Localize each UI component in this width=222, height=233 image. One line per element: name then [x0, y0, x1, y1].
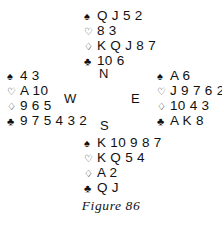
heart-icon: ♡	[157, 84, 167, 99]
spade-icon: ♠	[157, 69, 167, 84]
south-spades-row: ♠ K 10 9 8 7	[84, 135, 162, 150]
north-clubs-row: ♣ 10 6	[84, 53, 156, 68]
north-spades-row: ♠ Q J 5 2	[84, 8, 156, 23]
south-diamonds-row: ♢ A 2	[84, 165, 162, 180]
diamond-icon: ♢	[84, 166, 94, 181]
compass-west-label: W	[64, 92, 76, 106]
south-clubs-cards: Q J	[94, 180, 119, 195]
west-diamonds-cards: 9 6 5	[17, 98, 52, 113]
diamond-icon: ♢	[84, 39, 94, 54]
north-diamonds-cards: K Q J 8 7	[94, 38, 156, 53]
east-clubs-cards: A K 8	[167, 113, 204, 128]
east-diamonds-cards: 10 4 3	[167, 98, 209, 113]
north-hearts-row: ♡ 8 3	[84, 23, 156, 38]
south-hearts-cards: K Q 5 4	[94, 150, 145, 165]
heart-icon: ♡	[84, 24, 94, 39]
west-clubs-row: ♣ 9 7 5 4 3 2	[7, 113, 87, 128]
spade-icon: ♠	[7, 69, 17, 84]
east-diamonds-row: ♢ 10 4 3	[157, 98, 222, 113]
compass-south-label: S	[100, 119, 109, 133]
north-spades-cards: Q J 5 2	[94, 8, 143, 23]
east-spades-cards: A 6	[167, 68, 190, 83]
west-clubs-cards: 9 7 5 4 3 2	[17, 113, 87, 128]
west-hearts-cards: A 10	[17, 83, 48, 98]
east-hearts-cards: J 9 7 6 2	[167, 83, 222, 98]
west-spades-cards: 4 3	[17, 68, 40, 83]
south-clubs-row: ♣ Q J	[84, 180, 162, 195]
east-spades-row: ♠ A 6	[157, 68, 222, 83]
west-spades-row: ♠ 4 3	[7, 68, 87, 83]
diamond-icon: ♢	[157, 99, 167, 114]
hand-east: ♠ A 6 ♡ J 9 7 6 2 ♢ 10 4 3 ♣ A K 8	[157, 68, 222, 128]
spade-icon: ♠	[84, 9, 94, 24]
north-diamonds-row: ♢ K Q J 8 7	[84, 38, 156, 53]
club-icon: ♣	[157, 114, 167, 129]
bridge-deal-diagram: ♠ Q J 5 2 ♡ 8 3 ♢ K Q J 8 7 ♣ 10 6 ♠ 4 3…	[0, 0, 222, 233]
east-clubs-row: ♣ A K 8	[157, 113, 222, 128]
figure-caption: Figure 86	[0, 198, 222, 214]
south-spades-cards: K 10 9 8 7	[94, 135, 162, 150]
south-diamonds-cards: A 2	[94, 165, 117, 180]
diamond-icon: ♢	[7, 99, 17, 114]
compass-north-label: N	[99, 67, 108, 81]
club-icon: ♣	[84, 54, 94, 69]
east-hearts-row: ♡ J 9 7 6 2	[157, 83, 222, 98]
heart-icon: ♡	[84, 151, 94, 166]
spade-icon: ♠	[84, 136, 94, 151]
club-icon: ♣	[84, 181, 94, 196]
hand-south: ♠ K 10 9 8 7 ♡ K Q 5 4 ♢ A 2 ♣ Q J	[84, 135, 162, 195]
north-hearts-cards: 8 3	[94, 23, 117, 38]
club-icon: ♣	[7, 114, 17, 129]
hand-north: ♠ Q J 5 2 ♡ 8 3 ♢ K Q J 8 7 ♣ 10 6	[84, 8, 156, 68]
south-hearts-row: ♡ K Q 5 4	[84, 150, 162, 165]
heart-icon: ♡	[7, 84, 17, 99]
compass-east-label: E	[131, 92, 140, 106]
